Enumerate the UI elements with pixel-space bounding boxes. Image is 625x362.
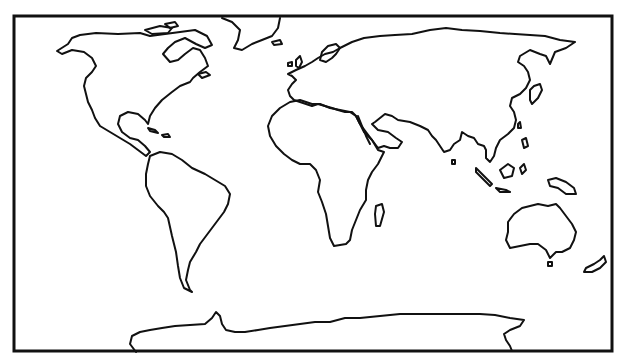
south-america[interactable] [146, 152, 230, 292]
greenland[interactable] [222, 18, 280, 50]
java [496, 188, 510, 192]
map-frame [14, 16, 612, 351]
sri-lanka [452, 160, 455, 164]
iceland [272, 40, 282, 45]
africa[interactable] [268, 100, 384, 246]
taiwan [518, 122, 521, 128]
red-sea-line [358, 116, 370, 144]
madagascar[interactable] [375, 204, 384, 226]
tasmania [548, 262, 552, 266]
sumatra [476, 168, 492, 186]
eurasia[interactable] [288, 28, 575, 162]
world-map [0, 0, 625, 362]
north-america[interactable] [57, 30, 212, 156]
new-guinea[interactable] [548, 178, 576, 194]
cuba-island [148, 128, 158, 133]
uk [296, 56, 302, 68]
japan[interactable] [530, 84, 542, 104]
australia[interactable] [506, 204, 576, 258]
antarctica[interactable] [130, 312, 524, 352]
philippines [522, 138, 528, 148]
borneo [500, 164, 514, 178]
newfoundland-island [198, 72, 210, 78]
ireland [288, 62, 292, 66]
hispaniola-island [162, 134, 170, 137]
new-zealand[interactable] [584, 256, 606, 272]
sulawesi [520, 164, 526, 174]
